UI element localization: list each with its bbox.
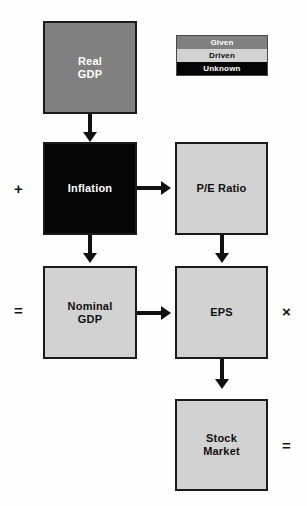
node-eps[interactable]: EPS — [175, 266, 268, 359]
arrow-head-real-gdp-to-inflation — [83, 132, 97, 142]
diagram-canvas: Given Driven Unknown Real GDP Inflation … — [0, 0, 307, 506]
node-real-gdp-label: Real GDP — [78, 55, 102, 81]
node-inflation[interactable]: Inflation — [43, 142, 137, 235]
operator-times: × — [282, 304, 291, 319]
legend-row-given: Given — [177, 36, 267, 49]
arrow-head-inflation-to-pe-ratio — [161, 181, 171, 195]
fill-legend: Given Driven Unknown — [176, 35, 268, 76]
legend-row-unknown: Unknown — [177, 62, 267, 75]
node-stock-market-label: Stock Market — [203, 432, 240, 458]
node-inflation-label: Inflation — [68, 182, 113, 195]
arrow-head-pe-ratio-to-eps — [215, 253, 229, 263]
operator-plus: + — [14, 181, 23, 196]
node-nominal-gdp[interactable]: Nominal GDP — [43, 266, 137, 359]
node-stock-market[interactable]: Stock Market — [175, 399, 268, 491]
arrow-head-inflation-to-nominal-gdp — [83, 253, 97, 263]
node-nominal-gdp-label: Nominal GDP — [68, 300, 113, 326]
node-pe-ratio-label: P/E Ratio — [196, 182, 246, 195]
arrow-head-nominal-gdp-to-eps — [161, 306, 171, 320]
node-eps-label: EPS — [210, 306, 233, 319]
connector-inflation-to-pe-ratio — [135, 186, 163, 190]
legend-row-driven: Driven — [177, 49, 267, 62]
node-real-gdp[interactable]: Real GDP — [43, 21, 137, 114]
operator-equals-left: = — [14, 303, 23, 318]
operator-equals-right: = — [282, 438, 291, 453]
node-pe-ratio[interactable]: P/E Ratio — [175, 142, 268, 235]
connector-nominal-gdp-to-eps — [135, 311, 163, 315]
arrow-head-eps-to-stock-market — [215, 379, 229, 389]
